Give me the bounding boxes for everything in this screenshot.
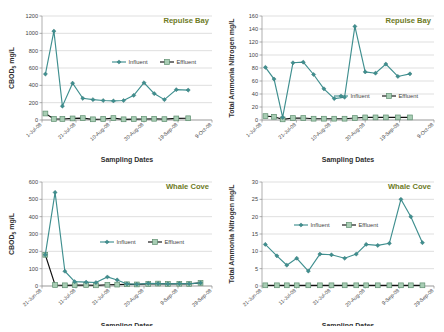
legend-label-influent: Influent	[311, 222, 330, 228]
data-point-effluent	[105, 282, 110, 287]
y-tick-label: 160	[249, 13, 258, 19]
chart-panel-repulse-bay-cbod: 0200400600800100012001-Jul-0821-Jul-0810…	[0, 0, 222, 166]
x-tick-label: 31-Jul-08	[311, 287, 331, 306]
x-tick-label: 20-Aug-08	[344, 287, 366, 308]
data-point-effluent	[291, 116, 296, 121]
data-point-effluent	[53, 283, 58, 288]
legend: InfluentEffluent	[112, 59, 196, 65]
data-point-effluent	[115, 282, 120, 287]
data-point-effluent	[284, 283, 289, 288]
data-point-effluent	[387, 283, 392, 288]
data-point-effluent	[364, 283, 369, 288]
y-tick-label: 300	[29, 231, 38, 237]
data-point-effluent	[62, 283, 67, 288]
legend-label-effluent: Effluent	[165, 239, 185, 245]
chart-panel-whale-cove-tan: 05101520253021-Jun-0811-Jul-0831-Jul-082…	[222, 160, 444, 326]
data-point-effluent	[395, 115, 400, 120]
y-axis-title: Total Ammonia Nitrogen mg/L	[228, 18, 236, 118]
y-tick-label: 20	[252, 214, 258, 220]
legend-marker-effluent	[165, 60, 170, 65]
x-tick-label: 20-Aug-08	[123, 287, 145, 308]
y-tick-label: 10	[252, 248, 258, 254]
data-point-effluent	[373, 115, 378, 120]
chart-whale-cove-tan: 05101520253021-Jun-0811-Jul-0831-Jul-082…	[222, 160, 444, 326]
data-point-influent	[186, 88, 190, 92]
data-point-influent	[91, 98, 95, 102]
data-point-effluent	[342, 283, 347, 288]
x-axis-title: Sampling Dates	[101, 322, 154, 326]
y-tick-label: 15	[252, 231, 258, 237]
data-point-effluent	[162, 117, 167, 122]
y-tick-label: 400	[29, 82, 38, 88]
data-point-effluent	[311, 116, 316, 121]
y-axis-title: CBOD5 mg/L	[8, 46, 17, 89]
y-tick-label: 60	[252, 78, 258, 84]
data-point-effluent	[43, 111, 48, 116]
data-point-influent	[101, 98, 105, 102]
legend-marker-effluent	[347, 223, 352, 228]
chart-title: Repulse Bay	[385, 16, 431, 25]
x-tick-label: 9-Sep-08	[380, 287, 400, 306]
data-point-effluent	[352, 116, 357, 121]
data-point-influent	[105, 275, 109, 279]
data-point-influent	[408, 72, 412, 76]
data-point-effluent	[174, 116, 179, 121]
data-point-effluent	[301, 116, 306, 121]
data-point-effluent	[101, 117, 106, 122]
data-point-influent	[387, 241, 391, 245]
y-tick-label: 80	[252, 65, 258, 71]
y-tick-label: 40	[252, 91, 258, 97]
legend-label-effluent: Effluent	[359, 222, 379, 228]
data-point-effluent	[332, 116, 337, 121]
data-point-influent	[353, 24, 357, 28]
data-point-effluent	[383, 115, 388, 120]
x-tick-label: 11-Jul-08	[277, 287, 297, 306]
x-tick-label: 31-Jul-08	[91, 287, 111, 306]
y-tick-label: 1200	[26, 13, 38, 19]
legend-marker-influent	[117, 60, 121, 64]
data-point-influent	[60, 104, 64, 108]
legend-label-influent: Influent	[117, 239, 136, 245]
data-point-effluent	[142, 117, 147, 122]
data-point-effluent	[322, 116, 327, 121]
chart-repulse-bay-tan: 0204060801001201401601-Jul-0821-Jul-0810…	[222, 0, 444, 166]
x-tick-label: 11-Jul-08	[57, 287, 77, 306]
x-axis-title: Sampling Dates	[322, 322, 375, 326]
data-point-effluent	[91, 117, 96, 122]
series-line-influent	[265, 26, 409, 117]
series-line-influent	[265, 199, 422, 271]
legend-label-effluent: Effluent	[399, 93, 419, 99]
y-tick-label: 20	[252, 104, 258, 110]
y-tick-label: 100	[249, 52, 258, 58]
y-tick-label: 30	[252, 179, 258, 185]
x-tick-label: 30-Aug-08	[344, 121, 366, 142]
legend: InfluentEffluent	[100, 239, 184, 245]
x-tick-label: 19-Sep-08	[378, 121, 400, 142]
chart-title: Whale Cove	[388, 182, 431, 191]
y-tick-label: 800	[29, 48, 38, 54]
data-point-influent	[291, 61, 295, 65]
data-point-influent	[53, 190, 57, 194]
chart-panel-repulse-bay-tan: 0204060801001201401601-Jul-0821-Jul-0810…	[222, 0, 444, 166]
data-point-effluent	[375, 283, 380, 288]
data-point-effluent	[294, 283, 299, 288]
x-tick-label: 9-Sep-08	[159, 287, 179, 306]
x-tick-label: 1-Jul-08	[245, 121, 263, 138]
data-point-influent	[115, 278, 119, 282]
data-point-influent	[52, 29, 56, 33]
x-tick-label: 9-Oct-08	[194, 121, 213, 139]
y-tick-label: 140	[249, 26, 258, 32]
chart-repulse-bay-cbod: 0200400600800100012001-Jul-0821-Jul-0810…	[0, 0, 222, 166]
x-tick-label: 10-Aug-08	[309, 121, 331, 142]
y-tick-label: 120	[249, 39, 258, 45]
x-tick-label: 30-Aug-08	[123, 121, 145, 142]
x-tick-label: 21-Jul-08	[57, 121, 77, 140]
data-point-effluent	[263, 114, 268, 119]
series-line-effluent	[45, 255, 200, 286]
data-point-effluent	[317, 283, 322, 288]
data-point-effluent	[272, 114, 277, 119]
x-tick-label: 19-Sep-08	[157, 121, 179, 142]
series-line-influent	[45, 31, 188, 106]
data-point-effluent	[111, 116, 116, 121]
x-tick-label: 29-Sep-08	[191, 287, 213, 308]
